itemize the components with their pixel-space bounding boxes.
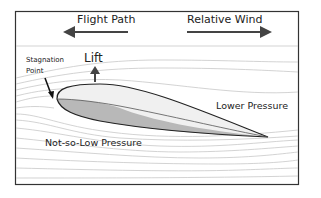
lift-label: Lift (84, 51, 103, 65)
lower-pressure-label: Lower Pressure (216, 100, 288, 111)
relative-wind-label: Relative Wind (187, 13, 263, 26)
not-so-low-pressure-label: Not-so-Low Pressure (45, 137, 142, 148)
flight-path-label: Flight Path (77, 13, 135, 26)
airfoil-lift-diagram: Flight Path Relative Wind Lift Stagnatio… (0, 0, 321, 198)
stagnation-label-point: Point (26, 67, 44, 75)
stagnation-label: Stagnation (26, 56, 64, 64)
